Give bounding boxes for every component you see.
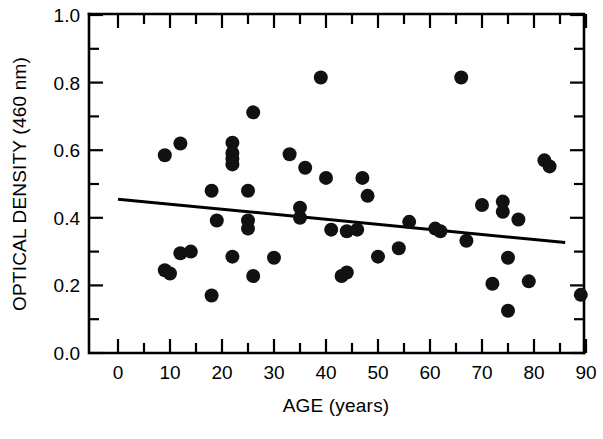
data-point xyxy=(225,250,239,264)
data-point xyxy=(246,105,260,119)
data-point xyxy=(267,251,281,265)
axis-top-right xyxy=(89,14,584,353)
x-tick-label: 60 xyxy=(419,362,440,383)
data-point xyxy=(522,274,536,288)
x-tick-label: 20 xyxy=(211,362,232,383)
data-point xyxy=(173,136,187,150)
y-tick-label: 0.4 xyxy=(54,208,81,229)
data-point xyxy=(496,205,510,219)
data-point xyxy=(225,157,239,171)
data-point xyxy=(501,304,515,318)
x-tick-label: 10 xyxy=(159,362,180,383)
data-point xyxy=(298,161,312,175)
data-point xyxy=(501,251,515,265)
data-point xyxy=(205,289,219,303)
data-point xyxy=(511,212,525,226)
data-point xyxy=(350,223,364,237)
x-axis-ticks xyxy=(118,14,586,353)
x-axis-tick-labels: 0102030405060708090 xyxy=(113,362,597,383)
data-point xyxy=(163,267,177,281)
data-point xyxy=(543,159,557,173)
axes-frame xyxy=(89,14,584,353)
x-tick-label: 0 xyxy=(113,362,124,383)
data-point xyxy=(283,147,297,161)
y-axis-ticks xyxy=(89,15,584,353)
axis-left-bottom xyxy=(89,14,584,353)
data-point xyxy=(459,234,473,248)
data-point xyxy=(319,171,333,185)
x-tick-label: 90 xyxy=(575,362,596,383)
data-point xyxy=(184,245,198,259)
data-point xyxy=(314,71,328,85)
data-point xyxy=(574,288,588,302)
y-tick-label: 0.6 xyxy=(54,140,80,161)
data-point xyxy=(158,148,172,162)
data-point xyxy=(324,223,338,237)
y-tick-label: 0.2 xyxy=(54,275,80,296)
y-tick-label: 0.8 xyxy=(54,73,80,94)
scatter-plot-figure: 0.00.20.40.60.81.0 0102030405060708090 A… xyxy=(0,0,603,439)
data-points xyxy=(158,71,588,318)
x-tick-label: 30 xyxy=(263,362,284,383)
data-point xyxy=(433,224,447,238)
data-point xyxy=(241,222,255,236)
data-point xyxy=(246,269,260,283)
chart-canvas: 0.00.20.40.60.81.0 0102030405060708090 A… xyxy=(0,0,603,439)
data-point xyxy=(361,189,375,203)
data-point xyxy=(340,266,354,280)
y-tick-label: 1.0 xyxy=(54,5,80,26)
x-axis-label: AGE (years) xyxy=(283,395,390,416)
data-point xyxy=(205,184,219,198)
data-point xyxy=(241,184,255,198)
data-point xyxy=(475,198,489,212)
data-point xyxy=(402,215,416,229)
x-tick-label: 80 xyxy=(523,362,544,383)
data-point xyxy=(355,171,369,185)
x-tick-label: 70 xyxy=(471,362,492,383)
data-point xyxy=(371,250,385,264)
data-point xyxy=(485,277,499,291)
data-point xyxy=(293,211,307,225)
data-point xyxy=(392,241,406,255)
x-tick-label: 40 xyxy=(315,362,336,383)
data-point xyxy=(454,71,468,85)
x-tick-label: 50 xyxy=(367,362,388,383)
data-point xyxy=(210,214,224,228)
y-axis-tick-labels: 0.00.20.40.60.81.0 xyxy=(54,5,81,364)
y-axis-label: OPTICAL DENSITY (460 nm) xyxy=(9,57,30,311)
y-tick-label: 0.0 xyxy=(54,343,80,364)
